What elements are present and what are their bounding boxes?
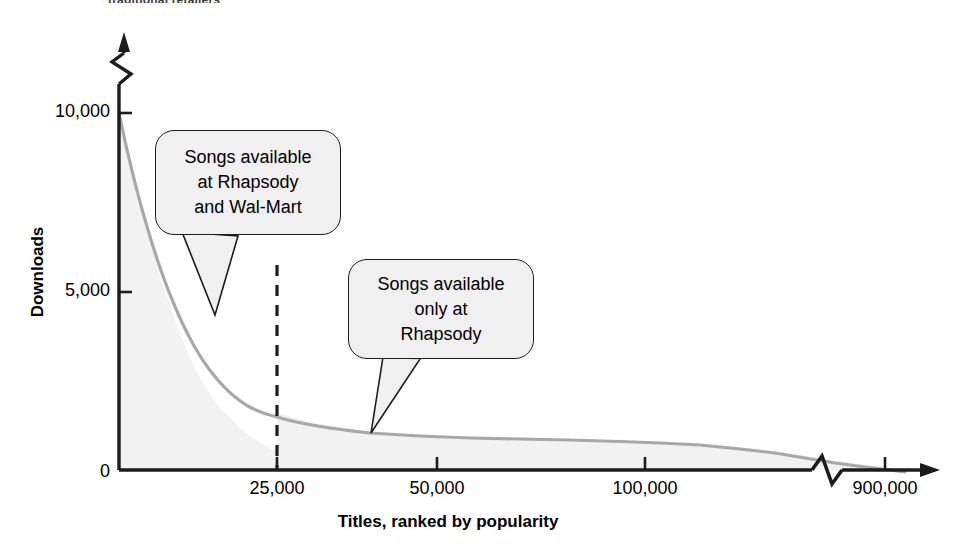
callout-2-line-2: only at — [414, 297, 467, 322]
y-axis-arrowhead — [118, 32, 130, 52]
y-tick-label-0: 0 — [0, 461, 110, 482]
x-tick-label-25000: 25,000 — [217, 478, 337, 499]
x-axis-label: Titles, ranked by popularity — [238, 512, 658, 532]
x-tick-label-50000: 50,000 — [377, 478, 497, 499]
y-axis-label: Downloads — [28, 172, 48, 372]
callout-1-line-1: Songs available — [184, 145, 311, 170]
callout-1-line-2: at Rhapsody — [197, 170, 298, 195]
callout-rhapsody-and-walmart: Songs available at Rhapsody and Wal-Mart — [155, 130, 341, 235]
x-tick-label-100000: 100,000 — [578, 478, 712, 499]
y-tick-label-10000: 10,000 — [0, 101, 110, 122]
callout-2-line-3: Rhapsody — [400, 322, 481, 347]
long-tail-chart-figure: traditional retailers — [0, 0, 957, 544]
callout-1-tail — [182, 232, 238, 315]
callout-2-tail — [371, 357, 420, 433]
callout-rhapsody-only: Songs available only at Rhapsody — [348, 259, 534, 359]
y-tick-label-5000: 5,000 — [0, 280, 110, 301]
x-axis-arrowhead — [920, 463, 940, 477]
y-axis-break-icon — [112, 53, 131, 84]
callout-2-line-1: Songs available — [377, 272, 504, 297]
x-tick-label-900000: 900,000 — [818, 478, 952, 499]
callout-1-line-3: and Wal-Mart — [194, 195, 301, 220]
